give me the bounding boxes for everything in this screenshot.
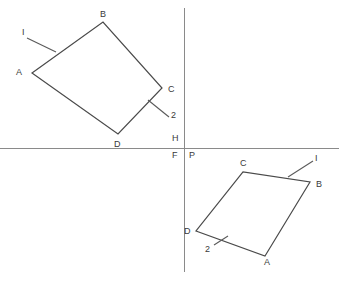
upper-left-annotation-tick-I bbox=[27, 38, 56, 52]
geometry-figure: H F P A B C D I 2 A B C D I 2 bbox=[0, 0, 339, 281]
vertex-label-lower-d: D bbox=[184, 227, 191, 236]
axis-label-p: P bbox=[189, 151, 195, 160]
vertex-label-upper-a: A bbox=[16, 68, 22, 77]
lower-right-quadrilateral bbox=[196, 172, 310, 256]
annotation-label-upper-2: 2 bbox=[171, 111, 176, 120]
vertex-label-lower-b: B bbox=[316, 180, 322, 189]
geometry-canvas bbox=[0, 0, 339, 281]
vertex-label-upper-b: B bbox=[100, 10, 106, 19]
vertex-label-upper-c: C bbox=[168, 85, 175, 94]
axis-label-h: H bbox=[172, 134, 179, 143]
vertex-label-upper-d: D bbox=[114, 140, 121, 149]
annotation-label-lower-i: I bbox=[315, 154, 318, 163]
vertex-label-lower-c: C bbox=[240, 159, 247, 168]
upper-left-quadrilateral bbox=[32, 22, 162, 134]
lower-right-annotation-tick-I bbox=[288, 161, 313, 177]
lower-right-annotation-tick-2 bbox=[214, 236, 228, 245]
axis-label-f: F bbox=[172, 151, 178, 160]
annotation-label-upper-i: I bbox=[22, 28, 25, 37]
annotation-label-lower-2: 2 bbox=[205, 245, 210, 254]
vertex-label-lower-a: A bbox=[264, 258, 270, 267]
upper-left-annotation-tick-2 bbox=[148, 100, 169, 117]
